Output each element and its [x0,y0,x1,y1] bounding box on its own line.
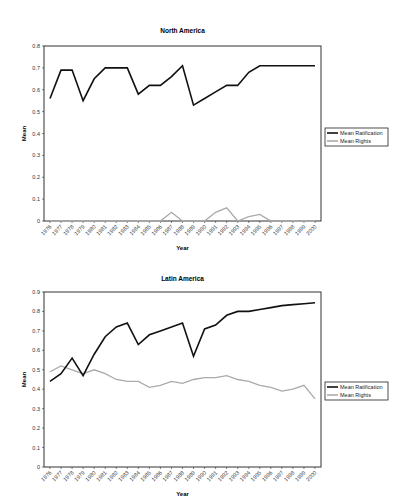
legend-entry: Mean Rights [340,392,371,398]
y-tick-label: 0.6 [32,347,40,353]
x-axis-label: Year [176,245,189,251]
x-tick-label: 1986 [150,469,163,482]
y-tick-label: 0 [37,218,40,224]
chart-title: Latin America [161,275,204,282]
chart-latin-america: Latin America00.10.20.30.40.50.60.70.80.… [21,275,388,497]
x-tick-label: 1979 [73,223,86,236]
y-tick-label: 0.7 [32,65,40,71]
x-tick-label: 1981 [95,469,108,482]
y-tick-label: 0.4 [32,131,40,137]
y-tick-label: 0.3 [32,406,40,412]
x-tick-label: 1989 [183,223,196,236]
y-tick-label: 0.5 [32,367,40,373]
y-tick-label: 0.9 [32,289,40,295]
plot-area [44,46,321,221]
x-tick-label: 1977 [51,469,64,482]
y-tick-label: 0.6 [32,87,40,93]
x-tick-label: 1978 [62,223,75,236]
x-tick-label: 1983 [117,223,130,236]
x-tick-label: 1984 [128,469,141,482]
x-tick-label: 1991 [205,469,218,482]
y-axis-label: Mean [21,126,27,142]
legend: Mean RatificationMean Rights [325,382,388,400]
x-tick-label: 1986 [150,223,163,236]
y-tick-label: 0.2 [32,174,40,180]
x-tick-label: 2000 [305,223,318,236]
x-tick-label: 1992 [216,469,229,482]
x-tick-label: 1993 [228,469,241,482]
y-tick-label: 0.8 [32,308,40,314]
chart-north-america: North America00.10.20.30.40.50.60.70.819… [21,27,388,251]
chart-title: North America [160,27,205,34]
legend: Mean RatificationMean Rights [325,128,388,146]
y-axis-label: Mean [21,372,27,388]
x-tick-label: 1996 [261,223,274,236]
x-tick-label: 1998 [283,223,296,236]
x-tick-label: 1980 [84,223,97,236]
y-tick-label: 0.5 [32,109,40,115]
series-mean-ratification [50,66,315,105]
x-tick-label: 1988 [172,223,185,236]
x-tick-label: 1990 [194,223,207,236]
y-tick-label: 0.3 [32,152,40,158]
x-tick-label: 1998 [283,469,296,482]
x-tick-label: 1994 [239,223,252,236]
x-tick-label: 1982 [106,469,119,482]
x-tick-label: 1997 [272,223,285,236]
x-tick-label: 1990 [194,469,207,482]
legend-entry: Mean Ratification [340,384,383,390]
x-tick-label: 1980 [84,469,97,482]
x-tick-label: 1984 [128,223,141,236]
x-tick-label: 1991 [205,223,218,236]
x-tick-label: 1978 [62,469,75,482]
x-tick-label: 1989 [183,469,196,482]
x-tick-label: 1988 [172,469,185,482]
x-tick-label: 1993 [228,223,241,236]
x-tick-label: 1994 [239,469,252,482]
x-tick-label: 1976 [40,469,53,482]
x-tick-label: 1985 [139,469,152,482]
plot-area [44,292,321,467]
legend-entry: Mean Rights [340,138,371,144]
y-tick-label: 0.2 [32,425,40,431]
x-tick-label: 1987 [161,469,174,482]
x-tick-label: 1985 [139,223,152,236]
y-tick-label: 0.8 [32,43,40,49]
series-mean-rights [50,366,315,399]
x-tick-label: 1999 [294,223,307,236]
x-tick-label: 2000 [305,469,318,482]
y-tick-label: 0.1 [32,445,40,451]
x-axis-label: Year [176,491,189,497]
legend-entry: Mean Ratification [340,130,383,136]
x-tick-label: 1997 [272,469,285,482]
x-tick-label: 1979 [73,469,86,482]
x-tick-label: 1996 [261,469,274,482]
series-mean-rights [50,208,315,221]
x-tick-label: 1999 [294,469,307,482]
x-tick-label: 1987 [161,223,174,236]
x-tick-label: 1976 [40,223,53,236]
x-tick-label: 1981 [95,223,108,236]
y-tick-label: 0 [37,464,40,470]
x-tick-label: 1995 [250,469,263,482]
series-mean-ratification [50,303,315,382]
y-tick-label: 0.4 [32,386,40,392]
y-tick-label: 0.7 [32,328,40,334]
x-tick-label: 1992 [216,223,229,236]
x-tick-label: 1977 [51,223,64,236]
x-tick-label: 1995 [250,223,263,236]
x-tick-label: 1983 [117,469,130,482]
x-tick-label: 1982 [106,223,119,236]
y-tick-label: 0.1 [32,196,40,202]
charts-canvas: North America00.10.20.30.40.50.60.70.819… [0,0,411,504]
